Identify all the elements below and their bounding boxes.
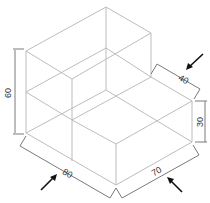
dimension-60: 60 [3, 49, 24, 134]
dimension-70: 70 [116, 145, 199, 198]
isometric-drawing: 60 80 70 40 30 [0, 0, 210, 203]
block-edges [26, 7, 192, 185]
arrow-top-right-icon [186, 54, 203, 70]
dim-label-40: 40 [177, 73, 191, 87]
arrow-bottom-left-icon [41, 174, 57, 190]
dimension-30: 30 [195, 101, 207, 142]
dim-label-30: 30 [195, 117, 205, 127]
dim-label-80: 80 [61, 167, 75, 181]
arrow-bottom-right-icon [167, 177, 182, 192]
dim-label-60: 60 [3, 88, 13, 98]
dimension-80: 80 [20, 136, 116, 198]
